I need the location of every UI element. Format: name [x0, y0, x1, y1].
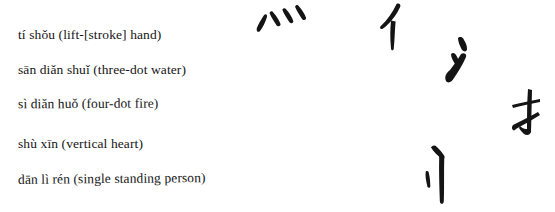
label-ti-shou: tí shǒu (lift-[stroke] hand): [18, 27, 161, 43]
stroke-dot-2: [269, 11, 280, 27]
radical-glyph-three-dot-water: [445, 37, 477, 85]
vertical-heart-calligraphy: [419, 144, 453, 209]
stroke-top-dot: [458, 37, 467, 51]
stroke-rising: [512, 112, 540, 130]
four-dot-fire-calligraphy: [252, 3, 310, 34]
label-si-dian-huo: sì diǎn huǒ (four-dot fire): [18, 96, 158, 113]
radical-glyph-four-dot-fire: [252, 3, 310, 34]
stroke-horizontal: [512, 99, 540, 108]
three-dot-water-calligraphy: [445, 37, 477, 85]
label-san-dian-shui: sān diǎn shuǐ (three-dot water): [18, 62, 186, 78]
stroke-dot-3: [282, 7, 293, 23]
scanned-textbook-page: tí shǒu (lift-[stroke] hand) sān diǎn sh…: [0, 0, 555, 212]
single-person-calligraphy: [377, 3, 405, 51]
stroke-vertical-hook: [519, 89, 532, 135]
stroke-dot-4: [295, 4, 306, 20]
stroke-vertical: [390, 21, 395, 51]
stroke-vertical: [438, 155, 446, 204]
radical-glyph-hand: [510, 88, 544, 144]
label-shu-xin: shù xīn (vertical heart): [18, 136, 143, 152]
hand-calligraphy: [510, 88, 544, 144]
stroke-left-dot: [255, 14, 268, 32]
stroke-left-dot: [425, 171, 430, 188]
radical-glyph-vertical-heart: [419, 144, 453, 209]
radical-glyph-single-person: [377, 3, 405, 51]
label-dan-li-ren: dān lì rén (single standing person): [18, 170, 206, 188]
stroke-left-falling: [380, 4, 400, 30]
